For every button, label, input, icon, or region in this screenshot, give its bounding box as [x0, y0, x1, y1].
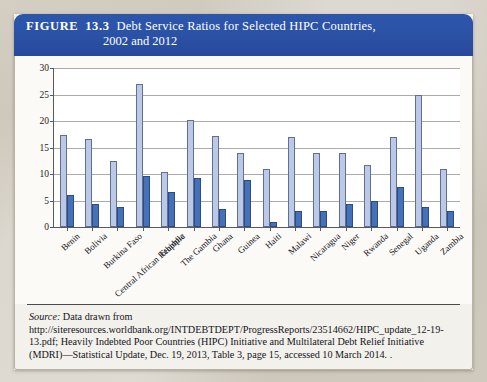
- x-axis-label: Uganda: [409, 230, 434, 300]
- x-axis-label: Malawi: [282, 230, 307, 300]
- bar-2002: [237, 153, 244, 227]
- x-axis-label: Ghana: [206, 230, 231, 300]
- bar-2012: [295, 211, 302, 227]
- bar-group: [282, 68, 307, 227]
- bar-2012: [92, 204, 99, 227]
- y-axis-tick-label: 10: [40, 169, 50, 179]
- bar-group: [435, 68, 460, 227]
- bar-group: [105, 68, 130, 227]
- figure-card: FIGURE 13.3 Debt Service Ratios for Sele…: [14, 14, 473, 370]
- bar-2002: [364, 165, 371, 227]
- bar-2012: [422, 207, 429, 227]
- x-axis-label: Rwanda: [358, 230, 383, 300]
- x-axis-label: Senegal: [384, 230, 409, 300]
- bar-group: [206, 68, 231, 227]
- x-axis-labels: BeninBoliviaBurkina FasoCentral African …: [53, 230, 460, 300]
- bar-2012: [371, 201, 378, 228]
- x-axis-label: Central African Reupblic: [129, 230, 154, 300]
- bar-2012: [320, 211, 327, 227]
- bar-2002: [313, 153, 320, 227]
- x-axis-label: Nicaragua: [307, 230, 332, 300]
- bar-group: [308, 68, 333, 227]
- bar-group: [409, 68, 434, 227]
- source-note: Source: Data drawn from http://siteresou…: [14, 304, 473, 370]
- figure-title-line-2: 2002 and 2012: [103, 34, 463, 49]
- bar-group: [181, 68, 206, 227]
- x-axis-label: Benin: [53, 230, 78, 300]
- bar-2002: [136, 84, 143, 227]
- y-axis-tick-label: 5: [44, 196, 49, 206]
- x-axis-label: Ethiopia: [155, 230, 180, 300]
- y-axis-tick-label: 30: [40, 63, 50, 73]
- bar-group: [359, 68, 384, 227]
- bar-group: [257, 68, 282, 227]
- y-axis-tick-label: 20: [40, 116, 50, 126]
- x-axis-label: Zambia: [435, 230, 460, 300]
- page-background: FIGURE 13.3 Debt Service Ratios for Sele…: [0, 0, 487, 382]
- x-axis-label: Guinea: [231, 230, 256, 300]
- y-axis-tick-label: 15: [40, 143, 50, 153]
- bar-2012: [244, 180, 251, 227]
- figure-title-text: Debt Service Ratios for Selected HIPC Co…: [117, 19, 376, 34]
- plot-area: 051015202530: [53, 68, 460, 228]
- bar-2002: [212, 136, 219, 227]
- figure-label: FIGURE: [26, 19, 78, 34]
- bar-2002: [390, 137, 397, 227]
- bar-group: [79, 68, 104, 227]
- bar-group: [333, 68, 358, 227]
- bar-group: [54, 68, 79, 227]
- bar-2012: [447, 211, 454, 227]
- bar-2002: [339, 153, 346, 227]
- bar-group: [384, 68, 409, 227]
- figure-title-line-1: FIGURE 13.3 Debt Service Ratios for Sele…: [26, 19, 463, 34]
- bar-group: [232, 68, 257, 227]
- bar-2002: [187, 120, 194, 227]
- y-axis-tick-label: 25: [40, 90, 50, 100]
- bar-2012: [270, 222, 277, 227]
- bar-2002: [161, 172, 168, 227]
- bar-2002: [110, 161, 117, 227]
- bar-2012: [194, 178, 201, 227]
- bar-2012: [143, 176, 150, 227]
- bar-2002: [288, 137, 295, 227]
- bar-2002: [415, 95, 422, 228]
- source-text: Source: Data drawn from http://siteresou…: [29, 311, 458, 361]
- x-axis-label: The Gambia: [180, 230, 205, 300]
- bar-groups: [54, 68, 460, 227]
- bar-2012: [168, 192, 175, 227]
- bar-group: [130, 68, 155, 227]
- bar-2012: [346, 204, 353, 227]
- source-prefix: Source:: [29, 311, 60, 322]
- bar-group: [156, 68, 181, 227]
- bar-2012: [397, 187, 404, 227]
- chart-canvas: 2002 2012 051015202530 BeninBoliviaBurki…: [14, 56, 473, 304]
- y-axis-tick-label: 0: [44, 222, 49, 232]
- bar-2002: [263, 169, 270, 227]
- x-axis-label-text: Haiti: [263, 231, 283, 250]
- bar-2002: [85, 139, 92, 227]
- x-axis-label-text: Zambia: [438, 231, 465, 257]
- bar-2002: [60, 135, 67, 227]
- x-axis-label: Bolivia: [78, 230, 103, 300]
- bar-2002: [440, 169, 447, 227]
- y-axis-tick-mark: [50, 227, 54, 228]
- bar-2012: [117, 207, 124, 227]
- source-body: Data drawn from http://siteresources.wor…: [29, 311, 444, 360]
- bar-2012: [219, 209, 226, 227]
- figure-header: FIGURE 13.3 Debt Service Ratios for Sele…: [14, 14, 473, 56]
- x-axis-label: Niger: [333, 230, 358, 300]
- x-axis-label: Haiti: [257, 230, 282, 300]
- figure-number: 13.3: [85, 19, 109, 34]
- bar-2012: [67, 195, 74, 227]
